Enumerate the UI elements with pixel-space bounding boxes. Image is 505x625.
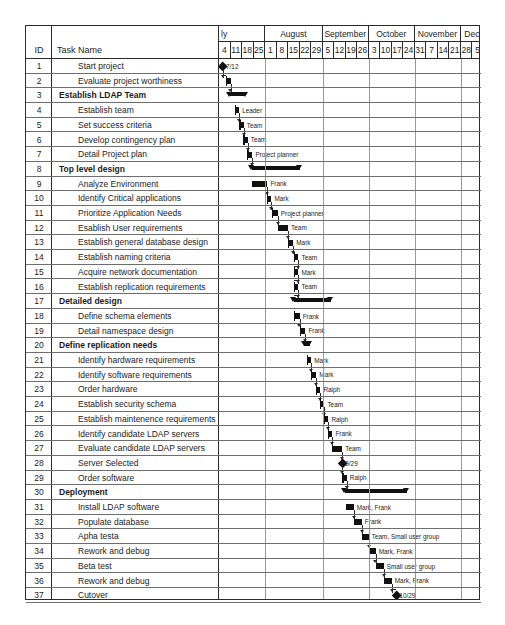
table-row[interactable]: 12Esablish User requirements: [26, 221, 481, 236]
timeline-month-october: October: [369, 26, 415, 42]
row-task-name: Prioritize Application Needs: [52, 206, 219, 220]
timeline-week-tick: 29: [311, 42, 323, 59]
row-id: 4: [26, 103, 52, 117]
row-task-name: Populate database: [52, 515, 219, 529]
table-row[interactable]: 13Establish general database design: [26, 235, 481, 250]
row-task-name: Establish security schema: [52, 397, 219, 411]
table-row[interactable]: 25Establish maintenence requirements: [26, 412, 481, 427]
row-id: 35: [26, 559, 52, 573]
row-task-name: Define replication needs: [52, 338, 219, 352]
row-id: 16: [26, 280, 52, 294]
table-row[interactable]: 2Evaluate project worthiness: [26, 74, 481, 89]
row-task-name: Establish replication requirements: [52, 280, 219, 294]
table-row[interactable]: 21Identify hardware requirements: [26, 353, 481, 368]
table-row[interactable]: 3Establish LDAP Team: [26, 88, 481, 103]
timeline-month-september: September: [323, 26, 369, 42]
row-task-name: Acquire network documentation: [52, 265, 219, 279]
row-id: 22: [26, 368, 52, 382]
row-task-name: Identify Critical applications: [52, 191, 219, 205]
table-row[interactable]: 30Deployment: [26, 485, 481, 500]
timeline-week-tick: 25: [254, 42, 266, 59]
table-row[interactable]: 1Start project: [26, 59, 481, 74]
table-row[interactable]: 32Populate database: [26, 515, 481, 530]
table-row[interactable]: 37Cutover: [26, 588, 481, 603]
timeline-week-tick: 5: [472, 42, 479, 59]
row-task-name: Set success criteria: [52, 118, 219, 132]
row-id: 30: [26, 485, 52, 499]
timeline-week-tick: 14: [438, 42, 450, 59]
table-row[interactable]: 29Order software: [26, 471, 481, 486]
timeline-week-tick: 8: [277, 42, 289, 59]
row-id: 37: [26, 588, 52, 602]
row-id: 5: [26, 118, 52, 132]
table-row[interactable]: 24Establish security schema: [26, 397, 481, 412]
row-task-name: Establish general database design: [52, 235, 219, 249]
table-row[interactable]: 9Analyze Environment: [26, 177, 481, 192]
timeline-week-tick: 5: [323, 42, 335, 59]
table-row[interactable]: 26Identify candidate LDAP servers: [26, 427, 481, 442]
row-task-name: Apha testa: [52, 529, 219, 543]
table-row[interactable]: 31Install LDAP software: [26, 500, 481, 515]
row-id: 31: [26, 500, 52, 514]
column-header-task-name: Task Name: [57, 42, 102, 58]
table-row[interactable]: 19Detail namespace design: [26, 324, 481, 339]
row-id: 25: [26, 412, 52, 426]
row-task-name: Order software: [52, 471, 219, 485]
row-task-name: Develop contingency plan: [52, 133, 219, 147]
table-row[interactable]: 7Detail Project plan: [26, 147, 481, 162]
table-row[interactable]: 15Acquire network documentation: [26, 265, 481, 280]
table-row[interactable]: 18Define schema elements: [26, 309, 481, 324]
row-id: 32: [26, 515, 52, 529]
table-row[interactable]: 23Order hardware: [26, 382, 481, 397]
timeline-week-tick: 28: [461, 42, 473, 59]
table-row[interactable]: 35Beta test: [26, 559, 481, 574]
table-row[interactable]: 34Rework and debug: [26, 544, 481, 559]
row-task-name: Deployment: [52, 485, 219, 499]
table-row[interactable]: 8Top level design: [26, 162, 481, 177]
row-id: 36: [26, 574, 52, 588]
row-task-name: Establish naming criteria: [52, 250, 219, 264]
table-row[interactable]: 22Identify software requirements: [26, 368, 481, 383]
table-row[interactable]: 36Rework and debug: [26, 574, 481, 589]
task-list-header: ID Task Name: [26, 26, 219, 59]
timeline-weeks-row: 411182518152229512192631017243171421285: [219, 42, 479, 59]
row-task-name: Define schema elements: [52, 309, 219, 323]
row-id: 19: [26, 324, 52, 338]
table-row[interactable]: 27Evaluate candidate LDAP servers: [26, 441, 481, 456]
table-row[interactable]: 4Establish team: [26, 103, 481, 118]
row-id: 6: [26, 133, 52, 147]
timeline-week-tick: 17: [392, 42, 404, 59]
table-row[interactable]: 11Prioritize Application Needs: [26, 206, 481, 221]
table-row[interactable]: 17Detailed design: [26, 294, 481, 309]
row-id: 34: [26, 544, 52, 558]
table-row[interactable]: 5Set success criteria: [26, 118, 481, 133]
row-task-name: Identify candidate LDAP servers: [52, 427, 219, 441]
timeline-week-tick: 24: [403, 42, 415, 59]
table-row[interactable]: 6Develop contingency plan: [26, 133, 481, 148]
row-task-name: Start project: [52, 59, 219, 73]
row-task-name: Install LDAP software: [52, 500, 219, 514]
row-task-name: Rework and debug: [52, 574, 219, 588]
timeline-week-tick: 26: [357, 42, 369, 59]
timeline-week-tick: 1: [265, 42, 277, 59]
row-task-name: Rework and debug: [52, 544, 219, 558]
row-task-name: Identify software requirements: [52, 368, 219, 382]
table-row[interactable]: 10Identify Critical applications: [26, 191, 481, 206]
table-row[interactable]: 33Apha testa: [26, 529, 481, 544]
table-row[interactable]: 14Establish naming criteria: [26, 250, 481, 265]
timeline-week-tick: 3: [369, 42, 381, 59]
row-task-name: Top level design: [52, 162, 219, 176]
row-id: 14: [26, 250, 52, 264]
row-task-name: Establish maintenence requirements: [52, 412, 219, 426]
timeline-week-tick: 12: [334, 42, 346, 59]
row-id: 24: [26, 397, 52, 411]
table-row[interactable]: 28Server Selected: [26, 456, 481, 471]
timeline-month-november: November: [415, 26, 461, 42]
timeline-week-tick: 22: [300, 42, 312, 59]
row-task-name: Server Selected: [52, 456, 219, 470]
table-row[interactable]: 16Establish replication requirements: [26, 280, 481, 295]
timeline-months-row: lyAugustSeptemberOctoberNovemberDec: [219, 26, 479, 42]
row-task-name: Detailed design: [52, 294, 219, 308]
row-id: 18: [26, 309, 52, 323]
table-row[interactable]: 20Define replication needs: [26, 338, 481, 353]
